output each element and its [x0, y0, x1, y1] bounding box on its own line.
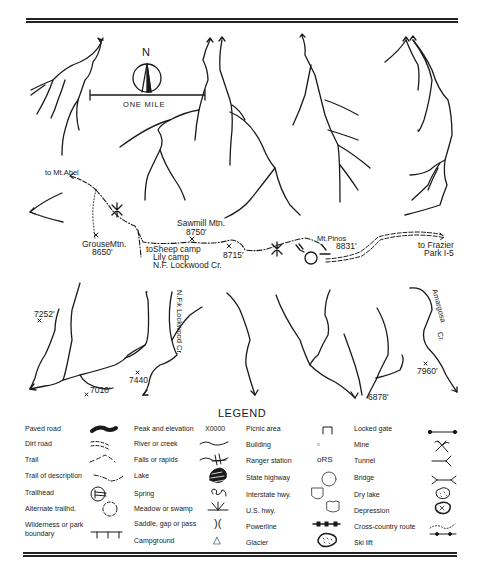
powerline-icon	[313, 522, 340, 526]
spring-icon	[212, 489, 226, 496]
stream-top-right-center	[293, 34, 370, 202]
stream-bottom-left	[30, 283, 149, 390]
depression-icon	[436, 502, 451, 513]
stream-top-left	[31, 38, 103, 155]
label-park-i5: Park I-5	[424, 249, 454, 258]
label-sawmill-elev: 8750'	[186, 228, 207, 237]
picnic-area-icon	[323, 427, 332, 434]
stream-top-right	[385, 36, 452, 215]
trail-of-description-icon	[94, 475, 124, 481]
dry-lake-icon	[436, 488, 450, 499]
trail-to-grouse-mtn	[93, 190, 96, 238]
bottom-border-rule	[23, 552, 457, 557]
label-mt-abel: to Mt.Abel	[45, 168, 79, 177]
mt-pinos-trail-mark	[320, 245, 330, 254]
paved-road-icon	[92, 427, 116, 431]
north-label: N	[142, 48, 150, 57]
falls-marker	[296, 244, 304, 252]
dirt-road-icon	[91, 442, 110, 451]
ski-lift-icon	[430, 533, 456, 536]
pass-marker-left	[112, 203, 122, 217]
interstate-icon	[312, 488, 323, 499]
label-grouse-mtn-elev: 8650'	[92, 248, 113, 257]
river-icon	[200, 442, 228, 445]
locked-gate-icon	[428, 430, 456, 433]
state-highway-icon	[322, 472, 336, 486]
trail-map	[0, 0, 484, 400]
label-nf-lockwood-cr: N.F. Lockwood Cr.	[153, 261, 222, 270]
stream-bottom-right-center	[276, 290, 403, 398]
label-elev-7010: 7010'	[90, 386, 111, 395]
stream-middle	[225, 112, 300, 218]
label-elev-7440: 7440	[129, 376, 148, 385]
north-arrow-icon	[133, 64, 161, 92]
mine-icon	[435, 441, 449, 452]
trail-icon	[90, 455, 115, 462]
campground-circle	[305, 252, 317, 264]
meadow-icon	[208, 502, 228, 510]
stream-nf-lockwood	[143, 292, 202, 395]
stream-top-center	[120, 37, 245, 200]
trailhead-icon	[91, 487, 106, 501]
wilderness-boundary-icon	[91, 532, 122, 538]
scale-label: ONE MILE	[123, 100, 165, 109]
label-elev-7960: 7960'	[417, 367, 438, 376]
cross-country-icon	[430, 524, 455, 528]
us-highway-icon	[327, 501, 339, 512]
lake-icon	[210, 468, 227, 483]
tunnel-icon	[432, 456, 451, 466]
alternate-trailhead-icon	[103, 502, 117, 516]
stream-far-left	[30, 193, 63, 222]
legend-symbols	[0, 400, 484, 552]
label-nfk-lockwood-creek: N.F.k Lockwood Cr.	[175, 290, 184, 355]
label-mt-pinos-elev: 8831'	[336, 242, 357, 251]
falls-icon	[200, 454, 228, 465]
label-elev-8715: 8715'	[223, 251, 244, 260]
stream-bottom-center	[227, 293, 258, 395]
bridge-icon	[432, 476, 456, 484]
label-elev-7252: 7252'	[34, 310, 55, 319]
glacier-icon	[318, 534, 336, 547]
